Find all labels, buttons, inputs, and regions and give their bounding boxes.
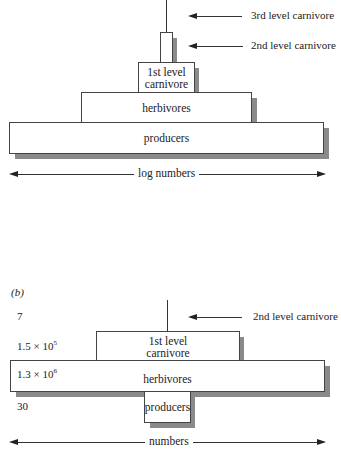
second-level-carnivore-box <box>160 32 173 63</box>
box-label: producers <box>144 132 189 144</box>
box-label: 1st level <box>149 335 188 347</box>
box-label: herbivores <box>143 373 192 385</box>
value-producers: 30 <box>17 400 28 412</box>
third-level-carnivore-line <box>166 0 167 33</box>
first-level-carnivore-box: 1st level carnivore <box>138 62 195 93</box>
box-label: carnivore <box>146 347 189 359</box>
value-second-level: 7 <box>17 310 23 322</box>
axis-label-numbers: numbers <box>145 435 193 447</box>
callout-line <box>196 16 242 17</box>
box-label: herbivores <box>142 102 191 114</box>
herbivores-box: herbivores <box>81 92 252 124</box>
callout-line <box>196 46 243 47</box>
herbivores-box: herbivores <box>10 360 325 392</box>
axis-label-log-numbers: log numbers <box>134 167 199 179</box>
callout-second-level-carnivore: 2nd level carnivore <box>251 39 336 51</box>
producers-box: producers <box>144 391 191 423</box>
arrowhead-left-icon <box>9 439 18 445</box>
callout-third-level-carnivore: 3rd level carnivore <box>251 9 334 21</box>
arrowhead-right-icon <box>317 439 326 445</box>
value-first-level: 1.5 × 105 <box>17 340 57 352</box>
box-label: producers <box>145 401 190 413</box>
arrowhead-left-icon <box>9 171 18 177</box>
callout-line <box>196 317 242 318</box>
callout-second-level-carnivore: 2nd level carnivore <box>253 310 338 322</box>
box-label: carnivore <box>145 78 188 90</box>
box-label: 1st level <box>147 66 186 78</box>
panel-tag: (b) <box>11 286 24 298</box>
value-herbivores: 1.3 × 106 <box>17 368 57 380</box>
first-level-carnivore-box: 1st level carnivore <box>96 331 240 362</box>
producers-box: producers <box>9 122 324 154</box>
second-level-carnivore-line <box>167 300 168 332</box>
arrowhead-right-icon <box>317 171 326 177</box>
